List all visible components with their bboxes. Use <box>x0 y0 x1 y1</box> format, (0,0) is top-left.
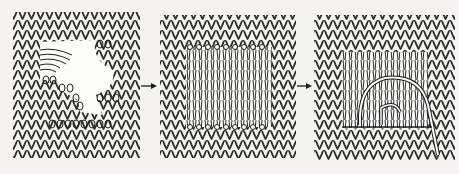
panel-reknit <box>314 15 455 160</box>
arrow-right-icon <box>297 83 312 89</box>
arrow-right-icon <box>141 83 157 89</box>
knitting-repair-illustration <box>0 0 459 174</box>
bottom-loops <box>188 125 265 130</box>
top-loops <box>188 45 265 50</box>
panel-warp-threads <box>160 15 296 158</box>
panel-damaged <box>13 12 140 158</box>
